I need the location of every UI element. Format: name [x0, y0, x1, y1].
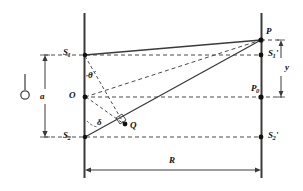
dimension-r — [85, 168, 261, 173]
label-theta: θ — [88, 71, 93, 80]
label-dimension-a: a — [40, 92, 45, 101]
point-s2-prime — [259, 135, 264, 140]
point-p0 — [258, 94, 263, 99]
point-p — [258, 37, 263, 42]
light-source-symbol — [21, 74, 29, 99]
label-s2-prime: S2' — [268, 131, 279, 140]
dashed-line-o-to-q — [86, 97, 124, 124]
label-s1-prime: S1' — [268, 49, 279, 58]
label-delta: δ — [97, 118, 102, 127]
label-q: Q — [130, 121, 137, 130]
ray-s1-to-p — [85, 40, 261, 55]
dashed-line-s1-to-q — [85, 56, 124, 124]
point-s2 — [83, 135, 87, 139]
point-o — [83, 95, 88, 100]
label-dimension-y: y — [285, 63, 289, 72]
optics-geometry-figure: S1 S2 O Q P S1' P0 S2' θ δ a y R — [0, 0, 303, 191]
label-p: P — [266, 27, 272, 36]
label-p0: P0 — [251, 84, 260, 93]
label-dimension-r: R — [169, 156, 175, 165]
point-s1 — [83, 53, 87, 57]
label-o: O — [69, 91, 76, 100]
point-s1-prime — [259, 53, 264, 58]
label-s1: S1 — [63, 48, 71, 57]
point-q — [123, 122, 128, 127]
label-s2: S2 — [63, 131, 71, 140]
figure-canvas — [0, 0, 303, 191]
